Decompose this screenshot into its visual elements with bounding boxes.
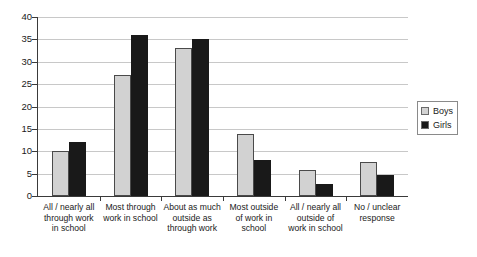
x-axis-label-line: Most outside — [229, 202, 278, 212]
y-tick-label: 20 — [6, 102, 32, 112]
y-axis: 0510152025303540 — [0, 0, 32, 257]
x-axis-label-line: work in school — [103, 213, 157, 223]
x-axis-label-line: in school — [52, 223, 86, 233]
y-tick-mark — [32, 39, 38, 40]
x-axis-label-line: response — [359, 213, 394, 223]
x-axis-label-line: Most through — [105, 202, 155, 212]
bar-girls-4 — [316, 184, 333, 196]
bar-chart: 0510152025303540 All / nearly allthrough… — [0, 0, 477, 257]
y-tick-mark — [32, 129, 38, 130]
x-tick-mark — [346, 196, 347, 201]
y-tick-mark — [32, 174, 38, 175]
bar-boys-0 — [52, 151, 69, 196]
legend-item-girls: Girls — [421, 119, 453, 131]
legend-swatch-girls — [421, 121, 429, 129]
x-axis-label-line: work in school — [288, 223, 342, 233]
bar-girls-3 — [254, 160, 271, 196]
y-tick-label: 10 — [6, 146, 32, 156]
y-tick-label: 25 — [6, 79, 32, 89]
y-tick-mark — [32, 17, 38, 18]
x-tick-mark — [285, 196, 286, 201]
legend-label-boys: Boys — [433, 107, 453, 116]
bar-boys-3 — [237, 134, 254, 196]
x-axis-label-5: No / unclearresponse — [340, 202, 414, 223]
y-tick-mark — [32, 196, 38, 197]
y-tick-mark — [32, 62, 38, 63]
y-tick-label: 0 — [6, 191, 32, 201]
x-axis-label-line: All / nearly all — [43, 202, 94, 212]
y-tick-label: 30 — [6, 57, 32, 67]
x-tick-mark — [100, 196, 101, 201]
x-axis-label-line: outside as — [173, 213, 212, 223]
bar-girls-0 — [69, 142, 86, 196]
x-axis-label-line: All / nearly all — [290, 202, 341, 212]
x-axis-label-line: through work — [167, 223, 217, 233]
bar-girls-1 — [131, 35, 148, 196]
bar-boys-1 — [114, 75, 131, 196]
x-axis-label-line: No / unclear — [354, 202, 400, 212]
y-tick-mark — [32, 107, 38, 108]
legend-item-boys: Boys — [421, 105, 453, 117]
plot-area — [38, 17, 408, 196]
y-tick-label: 15 — [6, 124, 32, 134]
y-tick-label: 5 — [6, 169, 32, 179]
y-tick-mark — [32, 151, 38, 152]
legend: Boys Girls — [417, 101, 458, 135]
x-tick-mark — [161, 196, 162, 201]
x-axis-label-line: school — [241, 223, 266, 233]
legend-label-girls: Girls — [433, 121, 452, 130]
x-axis-label-line: through work — [44, 213, 94, 223]
x-axis-label-line: outside of — [297, 213, 334, 223]
bar-girls-5 — [377, 175, 394, 196]
y-tick-label: 40 — [6, 12, 32, 22]
x-axis-label-line: About as much — [163, 202, 220, 212]
legend-swatch-boys — [421, 107, 429, 115]
y-tick-mark — [32, 84, 38, 85]
bar-girls-2 — [192, 39, 209, 196]
y-tick-label: 35 — [6, 34, 32, 44]
bar-boys-4 — [299, 170, 316, 196]
x-axis-label-line: of work in — [235, 213, 272, 223]
x-tick-mark — [223, 196, 224, 201]
bar-boys-2 — [175, 48, 192, 196]
bar-boys-5 — [360, 162, 377, 196]
